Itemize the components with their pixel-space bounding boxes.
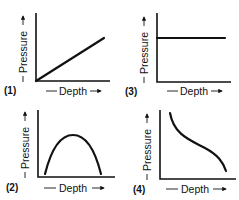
panel-4-y-label: Pressure: [141, 129, 153, 171]
panel-3-axes: [157, 13, 231, 82]
panel-1-x-label: Depth: [59, 85, 87, 97]
panel-3-y-label: Pressure: [138, 32, 150, 74]
panel-4-curve: [170, 113, 226, 171]
panel-2: (2) Depth Pressure: [6, 110, 115, 194]
panel-1-curve: [36, 38, 104, 81]
panel-4-number: (4): [133, 184, 145, 195]
panel-4-x-label: Depth: [181, 183, 209, 195]
panel-3-x-label: Depth: [180, 85, 208, 97]
panel-2-number: (2): [6, 182, 18, 193]
panel-2-y-label: Pressure: [19, 127, 31, 169]
panel-2-curve: [45, 135, 101, 174]
panel-3-number: (3): [125, 86, 137, 97]
panel-1-y-label: Pressure: [17, 31, 29, 73]
panel-1-axes: [36, 13, 110, 81]
panel-4: (4) Depth Pressure: [133, 110, 236, 195]
panel-1: (1) Depth Pressure: [4, 13, 110, 97]
panel-1-number: (1): [4, 85, 16, 96]
pressure-depth-figure: (1) Depth Pressure (3) Depth Pressure (2…: [0, 0, 239, 200]
panel-2-x-label: Depth: [59, 182, 87, 194]
panel-3: (3) Depth Pressure: [125, 13, 231, 97]
panel-2-axes: [38, 110, 115, 177]
